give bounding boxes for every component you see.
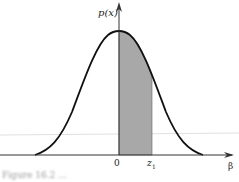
normal-distribution-chart: p(x) 0 z 1 β bbox=[0, 0, 239, 182]
shaded-area bbox=[119, 31, 152, 155]
figure-caption: Figure 16.2 ... bbox=[2, 170, 67, 180]
tick-label-z-subscript: 1 bbox=[152, 163, 156, 170]
x-axis-label: β bbox=[228, 161, 233, 171]
tick-label-zero: 0 bbox=[114, 158, 120, 168]
y-axis-label: p(x) bbox=[98, 7, 118, 18]
